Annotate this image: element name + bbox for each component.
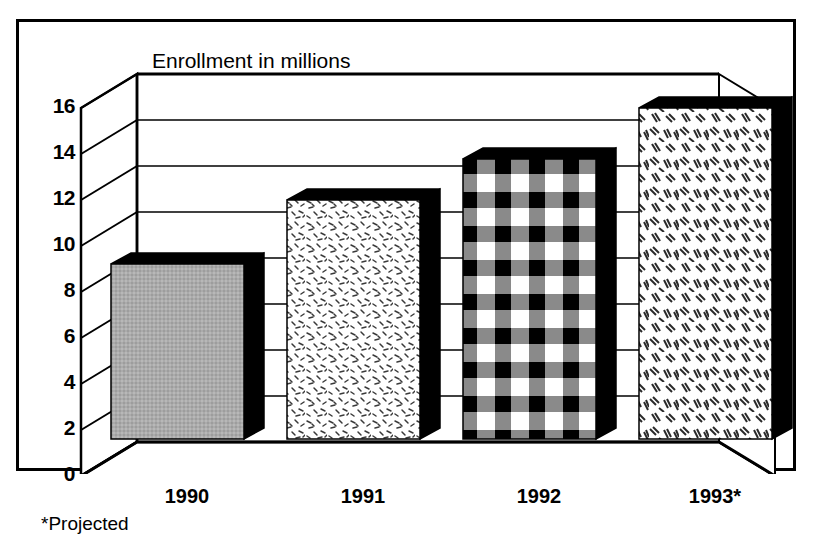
bar-1993	[639, 97, 792, 439]
y-tick-6: 6	[17, 325, 75, 346]
y-tick-8: 8	[17, 279, 75, 300]
chart-frame: 16 14 12 10 8 6 4 2 0 Enrollment in mill…	[16, 19, 796, 471]
x-label-1991: 1991	[293, 486, 433, 506]
y-tick-4: 4	[17, 371, 75, 392]
bar-1992	[463, 148, 616, 439]
x-label-1993: 1993*	[645, 486, 785, 506]
x-label-1992: 1992	[469, 486, 609, 506]
y-tick-0: 0	[17, 463, 75, 484]
chart-svg	[19, 22, 799, 474]
footnote-projected: *Projected	[41, 514, 129, 533]
y-tick-12: 12	[17, 187, 75, 208]
y-tick-10: 10	[17, 233, 75, 254]
y-tick-14: 14	[17, 141, 75, 162]
y-tick-2: 2	[17, 417, 75, 438]
bar-1991	[287, 189, 440, 439]
chart-stage	[19, 22, 799, 474]
x-label-1990: 1990	[117, 486, 257, 506]
chart-title: Enrollment in millions	[152, 50, 350, 71]
floor	[81, 442, 775, 474]
y-tick-16: 16	[17, 95, 75, 116]
bar-1990	[111, 253, 264, 439]
